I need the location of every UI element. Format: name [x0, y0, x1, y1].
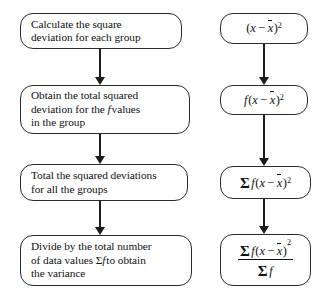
step-4-label: Divide by the total numberof data values…: [31, 240, 151, 280]
formula-2: f(x−x)2: [244, 93, 284, 108]
flowchart-canvas: Calculate the square deviation for each …: [0, 0, 324, 306]
formula-box-2: f(x−x)2: [220, 85, 308, 115]
step-box-3: Total the squared deviations for all the…: [20, 164, 188, 201]
formula-box-4: Σf(x−x)2 Σf: [220, 234, 311, 286]
step-2-label: Obtain the total squareddeviation for th…: [31, 89, 140, 129]
step-box-2: Obtain the total squareddeviation for th…: [20, 85, 190, 134]
formula-4-numerator: Σf(x−x)2: [238, 243, 293, 261]
step-1-label: Calculate the square deviation for each …: [31, 18, 141, 45]
formula-4-denominator: Σf: [256, 260, 275, 278]
step-3-label: Total the squared deviations for all the…: [31, 169, 157, 196]
formula-3: Σf(x−x)2: [240, 175, 291, 191]
formula-box-3: Σf(x−x)2: [220, 166, 311, 199]
formula-1: (x−x)2: [246, 21, 282, 36]
step-box-4: Divide by the total numberof data values…: [20, 235, 192, 286]
formula-box-1: (x−x)2: [220, 13, 308, 44]
formula-4: Σf(x−x)2 Σf: [238, 243, 293, 278]
step-box-1: Calculate the square deviation for each …: [20, 13, 182, 49]
